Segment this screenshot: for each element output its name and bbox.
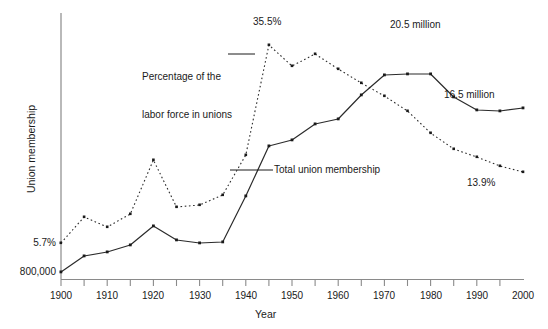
total-peak-value-label: 20.5 million	[390, 19, 441, 31]
x-tick-label-1950: 1950	[272, 290, 312, 302]
x-tick-label-1910: 1910	[87, 290, 127, 302]
y-axis-title-wrapper: Union membership	[21, 99, 39, 199]
x-tick-label-1930: 1930	[180, 290, 220, 302]
y-label-membership-start: 800,000	[2, 266, 56, 278]
union-membership-chart: Union membership 5.7% 800,000 1900 1910 …	[0, 0, 548, 329]
percentage-end-value-label: 13.9%	[467, 177, 495, 189]
percentage-series-callout: Percentage of the labor force in unions	[142, 46, 232, 146]
percentage-series-callout-line2: labor force in unions	[142, 109, 232, 122]
percentage-series-callout-line1: Percentage of the	[142, 71, 232, 84]
y-label-percent-start: 5.7%	[18, 237, 56, 249]
x-tick-label-1960: 1960	[318, 290, 358, 302]
percentage-series-markers	[60, 44, 525, 245]
x-tick-label-1940: 1940	[226, 290, 266, 302]
x-tick-label-1980: 1980	[411, 290, 451, 302]
total-series-callout: Total union membership	[274, 164, 380, 176]
x-tick-label-2000: 2000	[503, 290, 543, 302]
y-axis-title: Union membership	[25, 105, 37, 193]
x-tick-label-1900: 1900	[41, 290, 81, 302]
x-tick-label-1970: 1970	[364, 290, 404, 302]
percentage-peak-value-label: 35.5%	[253, 16, 281, 28]
total-end-value-label: 16.5 million	[444, 89, 495, 101]
x-tick-label-1990: 1990	[457, 290, 497, 302]
x-tick-label-1920: 1920	[133, 290, 173, 302]
x-axis-title: Year	[255, 308, 276, 320]
